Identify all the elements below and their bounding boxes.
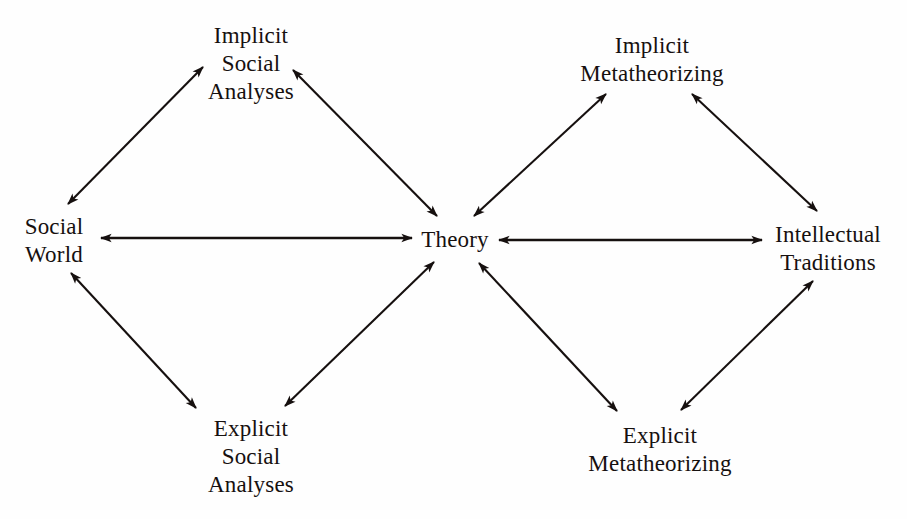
node-label-line: Metatheorizing (588, 450, 731, 478)
node-label-line: Social (25, 213, 84, 241)
node-theory: Theory (421, 226, 489, 254)
node-explicit-metatheorizing: ExplicitMetatheorizing (588, 422, 731, 478)
node-label-line: Metatheorizing (580, 60, 723, 88)
edge-theory--explicit-metatheorizing (479, 263, 617, 411)
node-implicit-social-analyses: ImplicitSocialAnalyses (208, 22, 294, 106)
edge-explicit-metatheorizing--intellectual-traditions (681, 281, 813, 410)
edge-social-world--explicit-social-analyses (71, 273, 196, 408)
edge-social-world--implicit-social-analyses (68, 67, 203, 204)
diagram-canvas: ImplicitSocialAnalysesImplicitMetatheori… (0, 0, 907, 519)
node-label-line: Traditions (775, 249, 881, 277)
node-label-line: Social (208, 50, 294, 78)
node-explicit-social-analyses: ExplicitSocialAnalyses (208, 415, 294, 499)
node-label-line: World (25, 241, 84, 269)
node-label-line: Explicit (588, 422, 731, 450)
node-label-line: Analyses (208, 471, 294, 499)
node-label-line: Implicit (208, 22, 294, 50)
edge-explicit-social-analyses--theory (285, 262, 434, 406)
node-label-line: Social (208, 443, 294, 471)
diagram-edges-layer (0, 0, 907, 519)
node-label-line: Explicit (208, 415, 294, 443)
node-label-line: Implicit (580, 32, 723, 60)
node-social-world: SocialWorld (25, 213, 84, 269)
edge-implicit-metatheorizing--intellectual-traditions (692, 94, 817, 211)
node-intellectual-traditions: IntellectualTraditions (775, 221, 881, 277)
node-label-line: Intellectual (775, 221, 881, 249)
edge-theory--implicit-metatheorizing (474, 94, 606, 216)
node-implicit-metatheorizing: ImplicitMetatheorizing (580, 32, 723, 88)
edge-implicit-social-analyses--theory (293, 70, 437, 216)
node-label-line: Theory (421, 226, 489, 254)
node-label-line: Analyses (208, 78, 294, 106)
